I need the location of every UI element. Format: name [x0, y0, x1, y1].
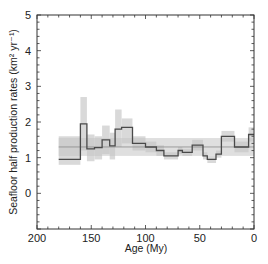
plot-frame [37, 15, 254, 229]
y-axis-label: Seafloor half production rates (km² yr⁻¹… [7, 29, 19, 215]
y-tick-label: 4 [25, 45, 31, 57]
plot-border [37, 15, 254, 229]
chart-figure: 200150100500 012345 Age (My) Seafloor ha… [0, 0, 268, 264]
y-tick-label: 5 [25, 9, 31, 21]
y-tick-label: 3 [25, 80, 31, 92]
chart-svg: 200150100500 012345 Age (My) Seafloor ha… [0, 0, 268, 264]
x-tick-label: 0 [251, 232, 257, 244]
x-axis-label: Age (My) [125, 242, 168, 254]
y-tick-label: 0 [25, 187, 31, 199]
x-tick-label: 200 [28, 232, 46, 244]
y-tick-label: 2 [25, 116, 31, 128]
x-axis-ticks: 200150100500 [28, 15, 257, 244]
x-tick-label: 150 [82, 232, 100, 244]
x-tick-label: 50 [194, 232, 206, 244]
y-tick-label: 1 [25, 152, 31, 164]
y-axis-ticks: 012345 [25, 9, 254, 229]
